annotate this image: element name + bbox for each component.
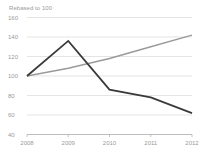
data-series: [27, 35, 192, 113]
x-axis-labels: 20082009201020112012: [20, 140, 199, 146]
y-axis-tick-label: 120: [8, 54, 19, 60]
y-axis-tick-label: 140: [8, 34, 19, 40]
y-axis-tick-label: 160: [8, 15, 19, 21]
x-axis-tick-label: 2008: [20, 140, 34, 146]
y-axis-tick-label: 40: [8, 132, 15, 138]
x-axis: [27, 135, 192, 138]
y-axis-tick-label: 100: [8, 73, 19, 79]
gridlines: [27, 18, 192, 135]
x-axis-tick-label: 2010: [103, 140, 117, 146]
y-axis-tick-label: 80: [8, 93, 15, 99]
y-axis-tick-label: 60: [8, 112, 15, 118]
y-axis-labels: 406080100120140160: [8, 15, 19, 138]
series-dark-series: [27, 41, 192, 113]
x-axis-tick-label: 2011: [144, 140, 158, 146]
x-axis-tick-label: 2012: [185, 140, 199, 146]
line-chart: Rebased to 100 406080100120140160 200820…: [0, 0, 199, 154]
chart-plot-area: 406080100120140160 20082009201020112012: [0, 0, 199, 154]
x-axis-tick-label: 2009: [62, 140, 76, 146]
